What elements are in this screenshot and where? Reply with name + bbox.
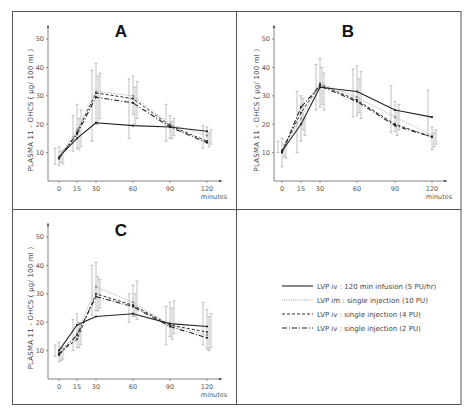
- legend-item-infusion: LVP iv : 120 min infusion (5 PU/hr): [282, 283, 437, 291]
- x-tick-label: 30: [316, 185, 324, 193]
- data-point: [58, 157, 60, 159]
- data-point: [394, 125, 396, 127]
- data-point: [206, 325, 208, 327]
- x-tick-label: 30: [92, 383, 100, 391]
- data-point: [132, 95, 134, 97]
- data-point: [132, 102, 134, 104]
- data-point: [95, 96, 97, 98]
- data-point: [132, 306, 134, 308]
- data-point: [319, 85, 321, 87]
- data-point: [76, 324, 78, 326]
- y-tick-label: 50: [36, 233, 44, 241]
- x-tick-label: 120: [426, 185, 438, 193]
- data-point: [206, 337, 208, 339]
- data-point: [95, 293, 97, 295]
- data-point: [95, 315, 97, 317]
- data-point: [356, 96, 358, 98]
- x-tick-label: 90: [166, 185, 174, 193]
- data-point: [300, 117, 302, 119]
- x-tick-label: 30: [92, 185, 100, 193]
- y-tick-label: 10: [36, 149, 44, 157]
- data-point: [300, 112, 302, 114]
- data-point: [76, 338, 78, 340]
- y-axis-arrow-icon: [47, 223, 49, 226]
- x-axis-arrow-icon: [219, 180, 222, 182]
- panel-title: A: [115, 22, 127, 41]
- legend-item-im-10pu: LVP im : single injection (10 PU): [282, 297, 428, 305]
- data-point: [76, 137, 78, 139]
- x-tick-label: 60: [353, 185, 361, 193]
- y-tick-label: 20: [36, 319, 44, 327]
- data-point: [206, 334, 208, 336]
- x-tick-label: 120: [201, 185, 213, 193]
- data-point: [300, 106, 302, 108]
- data-point: [394, 116, 396, 118]
- y-tick-label: 20: [262, 121, 270, 129]
- data-point: [76, 334, 78, 336]
- data-point: [356, 90, 358, 92]
- data-point: [58, 354, 60, 356]
- y-tick-label: 40: [36, 262, 44, 270]
- data-point: [95, 92, 97, 94]
- y-tick-label: 10: [36, 347, 44, 355]
- data-point: [206, 331, 208, 333]
- y-tick-label: 30: [262, 92, 270, 100]
- figure-canvas: A1020304050015306090120minutesPLASMA 11 …: [0, 0, 471, 420]
- x-tick-label: 15: [73, 185, 81, 193]
- legend-label: LVP iv : single injection (4 PU): [317, 311, 421, 319]
- data-point: [95, 122, 97, 124]
- data-point: [132, 313, 134, 315]
- y-axis-label: PLASMA 11 - OHCS ( µg/ 100 ml ): [253, 49, 261, 172]
- legend-label: LVP iv : 120 min infusion (5 PU/hr): [317, 283, 437, 291]
- data-point: [169, 126, 171, 128]
- x-tick-label: 0: [57, 185, 61, 193]
- panel-b: B1020304050015306090120minutesPLASMA 11 …: [253, 22, 453, 201]
- data-point: [169, 325, 171, 327]
- x-tick-label: 90: [166, 383, 174, 391]
- data-point: [431, 136, 433, 138]
- y-tick-label: 40: [36, 64, 44, 72]
- legend-label: LVP im : single injection (10 PU): [317, 297, 428, 305]
- x-axis-arrow-icon: [444, 180, 447, 182]
- data-point: [281, 152, 283, 154]
- x-tick-label: 60: [129, 383, 137, 391]
- data-point: [206, 130, 208, 132]
- x-tick-label: 15: [73, 383, 81, 391]
- panel-a: A1020304050015306090120minutesPLASMA 11 …: [27, 22, 228, 201]
- data-point: [132, 98, 134, 100]
- data-point: [300, 123, 302, 125]
- y-axis-arrow-icon: [273, 25, 275, 28]
- data-point: [394, 109, 396, 111]
- y-axis-label: PLASMA 11 - OHCS ( µg/ 100 ml ): [27, 247, 35, 370]
- x-tick-label: 120: [201, 383, 213, 391]
- data-point: [95, 286, 97, 288]
- x-tick-label: 0: [280, 185, 284, 193]
- x-axis-arrow-icon: [219, 378, 222, 380]
- legend-item-iv-2pu: LVP iv : single injection (2 PU): [282, 325, 421, 333]
- data-point: [132, 125, 134, 127]
- y-tick-label: 40: [262, 64, 270, 72]
- x-axis-label: minutes: [201, 391, 228, 399]
- y-tick-label: 10: [262, 149, 270, 157]
- y-tick-label: 30: [36, 290, 44, 298]
- data-point: [206, 142, 208, 144]
- x-tick-label: 15: [297, 185, 305, 193]
- legend: LVP iv : 120 min infusion (5 PU/hr) LVP …: [282, 283, 437, 333]
- y-axis-arrow-icon: [47, 25, 49, 28]
- y-tick-label: 30: [36, 92, 44, 100]
- legend-item-iv-4pu: LVP iv : single injection (4 PU): [282, 311, 421, 319]
- panel-title: C: [115, 221, 127, 240]
- y-axis-label: PLASMA 11 - OHCS ( µg/ 100 ml ): [27, 49, 35, 172]
- y-tick-label: 50: [36, 35, 44, 43]
- y-tick-label: 20: [36, 121, 44, 129]
- data-point: [132, 301, 134, 303]
- data-point: [76, 129, 78, 131]
- x-axis-label: minutes: [201, 193, 228, 201]
- panel-c: C1020304050015306090120minutesPLASMA 11 …: [27, 221, 228, 399]
- x-tick-label: 90: [391, 185, 399, 193]
- data-point: [431, 116, 433, 118]
- data-point: [206, 135, 208, 137]
- x-tick-label: 60: [129, 185, 137, 193]
- x-axis-label: minutes: [426, 193, 453, 201]
- legend-label: LVP iv : single injection (2 PU): [317, 325, 421, 333]
